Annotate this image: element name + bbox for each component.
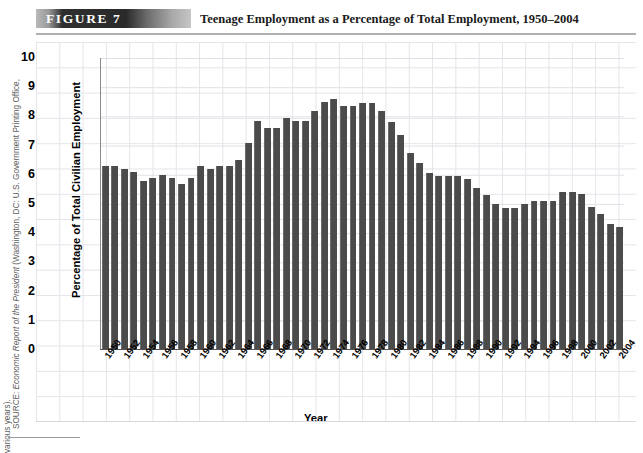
y-tick-6: 6 [11, 167, 35, 181]
bar-1994 [521, 204, 528, 350]
bar-1983 [416, 163, 423, 350]
bar-1992 [502, 208, 509, 350]
bar-1995 [531, 201, 538, 350]
y-tick-1: 1 [11, 313, 35, 327]
bar-1954 [140, 181, 147, 350]
bar-1967 [264, 128, 271, 350]
figure-badge-label: FIGURE 7 [46, 10, 196, 28]
bar-1964 [235, 160, 242, 350]
bar-1987 [454, 176, 461, 350]
bar-1968 [273, 128, 280, 350]
bar-1963 [226, 166, 233, 350]
y-tick-10: 10 [11, 50, 35, 64]
bar-1962 [216, 166, 223, 350]
bar-1965 [245, 143, 252, 350]
bar-2003 [607, 224, 614, 350]
y-tick-4: 4 [11, 225, 35, 239]
bar-1986 [445, 176, 452, 350]
bar-1991 [492, 204, 499, 350]
bar-2004 [616, 227, 623, 350]
bar-1982 [407, 153, 414, 350]
bar-1979 [378, 111, 385, 350]
header-divider [36, 33, 636, 35]
plot-area [100, 58, 624, 350]
y-axis-line [100, 58, 101, 350]
bar-1998 [559, 192, 566, 350]
bar-2000 [578, 194, 585, 350]
figure-title: Teenage Employment as a Percentage of To… [200, 10, 579, 28]
footer-divider [8, 437, 80, 438]
chart-panel: 012345678910 Percentage of Total Civilia… [36, 42, 636, 422]
bar-1978 [369, 103, 376, 350]
bar-1956 [159, 175, 166, 350]
bar-1959 [188, 178, 195, 350]
y-tick-0: 0 [11, 342, 35, 356]
bar-2002 [597, 214, 604, 350]
bar-1955 [149, 178, 156, 350]
bar-1977 [359, 103, 366, 350]
bar-1950 [102, 166, 109, 350]
bar-1969 [283, 118, 290, 350]
bar-1974 [330, 99, 337, 350]
bar-1952 [121, 169, 128, 350]
y-tick-3: 3 [11, 254, 35, 268]
bar-1985 [435, 176, 442, 350]
bar-1970 [292, 121, 299, 350]
bar-1981 [397, 135, 404, 350]
bar-1957 [169, 178, 176, 350]
y-tick-5: 5 [11, 196, 35, 210]
bar-1972 [311, 111, 318, 350]
bar-1997 [550, 201, 557, 350]
y-tick-9: 9 [11, 79, 35, 93]
y-tick-2: 2 [11, 284, 35, 298]
panel-bottom-border [36, 421, 636, 422]
x-axis-title: Year [304, 412, 328, 424]
bar-1973 [321, 102, 328, 350]
y-tick-8: 8 [11, 108, 35, 122]
y-axis-title: Percentage of Total Civilian Employment [70, 56, 86, 324]
bar-1966 [254, 121, 261, 350]
bar-1993 [511, 208, 518, 350]
bar-1999 [569, 192, 576, 350]
bar-1958 [178, 184, 185, 350]
source-note-line2: various years). [3, 373, 17, 453]
bar-1975 [340, 106, 347, 350]
y-tick-7: 7 [11, 138, 35, 152]
bar-1960 [197, 166, 204, 350]
bar-1980 [388, 122, 395, 350]
bar-1988 [464, 179, 471, 350]
bar-1990 [483, 195, 490, 350]
bar-2001 [588, 207, 595, 350]
figure-header: FIGURE 7 Teenage Employment as a Percent… [0, 0, 643, 36]
bar-1961 [207, 169, 214, 350]
bar-1953 [130, 172, 137, 350]
bar-1976 [350, 106, 357, 350]
bar-1971 [302, 121, 309, 350]
bar-1989 [473, 188, 480, 350]
bar-1996 [540, 201, 547, 350]
bar-1951 [111, 166, 118, 350]
bar-1984 [426, 173, 433, 350]
